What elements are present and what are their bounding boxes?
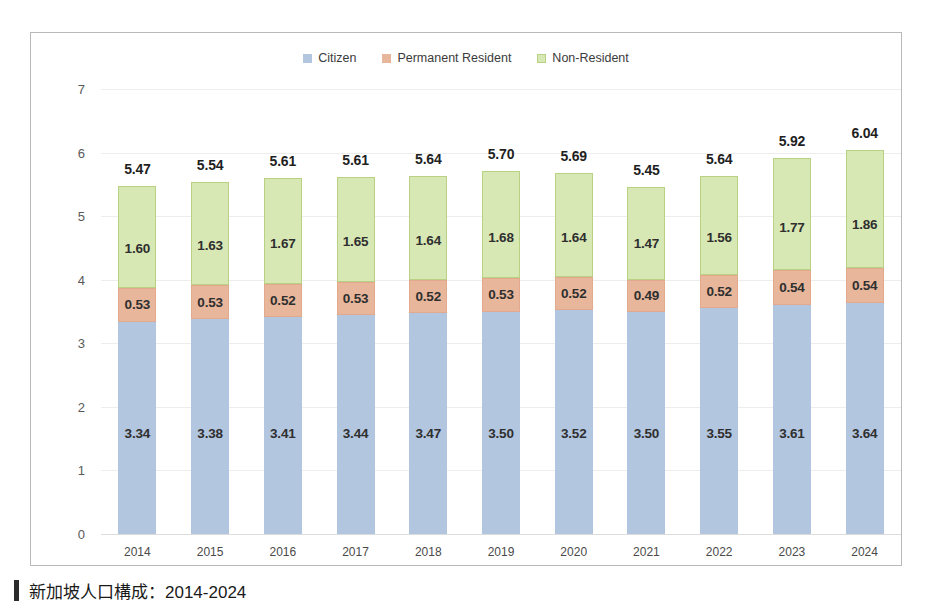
bar-group-2018[interactable]: 3.470.521.645.642018 [409, 89, 447, 534]
bar-segment-permanent-resident[interactable]: 0.54 [846, 268, 884, 302]
legend-item-citizen[interactable]: Citizen [303, 51, 356, 65]
bar-segment-non-resident[interactable]: 1.86 [846, 150, 884, 268]
legend-label: Permanent Resident [397, 51, 511, 65]
legend-item-non-resident[interactable]: Non-Resident [537, 51, 628, 65]
bar-segment-non-resident[interactable]: 1.68 [482, 171, 520, 278]
y-axis-tick: 1 [78, 463, 85, 478]
bar-group-2021[interactable]: 3.500.491.475.452021 [627, 89, 665, 534]
bar-segment-permanent-resident[interactable]: 0.53 [482, 278, 520, 312]
caption-marker-icon [14, 580, 19, 601]
bar-segment-citizen[interactable]: 3.44 [337, 315, 375, 534]
bar-group-2023[interactable]: 3.610.541.775.922023 [773, 89, 811, 534]
x-axis-tick-2018: 2018 [415, 545, 442, 559]
bar-segment-permanent-resident[interactable]: 0.52 [700, 275, 738, 308]
bar-total-label: 5.64 [706, 151, 732, 167]
bar-segment-permanent-resident[interactable]: 0.49 [627, 280, 665, 311]
bar-segment-permanent-resident[interactable]: 0.53 [118, 288, 156, 322]
bar-total-label: 5.69 [560, 148, 586, 164]
bar-value-label-permanent-resident: 0.53 [197, 295, 222, 310]
bar-value-label-permanent-resident: 0.52 [561, 286, 586, 301]
bar-segment-citizen[interactable]: 3.50 [482, 312, 520, 535]
caption: 新加坡人口構成：2014-2024 [14, 578, 246, 603]
bar-segment-non-resident[interactable]: 1.56 [700, 176, 738, 275]
y-axis-tick: 7 [78, 82, 85, 97]
bar-group-2024[interactable]: 3.640.541.866.042024 [846, 89, 884, 534]
bar-segment-non-resident[interactable]: 1.63 [191, 182, 229, 286]
x-axis-tick-2024: 2024 [851, 545, 878, 559]
bar-segment-citizen[interactable]: 3.34 [118, 322, 156, 534]
bar-segment-citizen[interactable]: 3.47 [409, 313, 447, 534]
bar-segment-non-resident[interactable]: 1.67 [264, 178, 302, 284]
bar-segment-citizen[interactable]: 3.52 [555, 310, 593, 534]
bar-segment-permanent-resident[interactable]: 0.52 [264, 284, 302, 317]
y-axis-tick: 6 [78, 145, 85, 160]
caption-text: 新加坡人口構成：2014-2024 [29, 578, 246, 603]
bar-value-label-citizen: 3.52 [561, 426, 586, 441]
bar-segment-citizen[interactable]: 3.38 [191, 319, 229, 534]
bar-value-label-non-resident: 1.67 [270, 236, 295, 251]
bar-value-label-permanent-resident: 0.52 [270, 293, 295, 308]
legend-label: Non-Resident [552, 51, 628, 65]
bar-value-label-non-resident: 1.68 [488, 230, 513, 245]
bar-group-2014[interactable]: 3.340.531.605.472014 [118, 89, 156, 534]
bar-segment-permanent-resident[interactable]: 0.52 [409, 280, 447, 313]
bar-value-label-non-resident: 1.65 [343, 234, 368, 249]
x-axis-tick-2023: 2023 [779, 545, 806, 559]
bar-segment-non-resident[interactable]: 1.60 [118, 186, 156, 288]
bar-group-2016[interactable]: 3.410.521.675.612016 [264, 89, 302, 534]
legend-item-permanent-resident[interactable]: Permanent Resident [382, 51, 511, 65]
bar-total-label: 5.92 [779, 133, 805, 149]
bar-segment-citizen[interactable]: 3.61 [773, 305, 811, 534]
bar-group-2019[interactable]: 3.500.531.685.702019 [482, 89, 520, 534]
bar-value-label-citizen: 3.41 [270, 426, 295, 441]
bar-value-label-permanent-resident: 0.54 [779, 280, 804, 295]
bar-segment-non-resident[interactable]: 1.65 [337, 177, 375, 282]
bar-value-label-non-resident: 1.56 [706, 230, 731, 245]
bar-total-label: 5.61 [270, 153, 296, 169]
bar-segment-citizen[interactable]: 3.55 [700, 308, 738, 534]
x-axis-tick-2022: 2022 [706, 545, 733, 559]
bar-segment-non-resident[interactable]: 1.64 [555, 173, 593, 277]
bar-group-2017[interactable]: 3.440.531.655.612017 [337, 89, 375, 534]
x-axis-tick-2015: 2015 [197, 545, 224, 559]
bar-value-label-citizen: 3.61 [779, 426, 804, 441]
bar-total-label: 5.61 [342, 152, 368, 168]
y-axis-tick: 5 [78, 209, 85, 224]
bar-segment-permanent-resident[interactable]: 0.54 [773, 270, 811, 304]
bar-group-2015[interactable]: 3.380.531.635.542015 [191, 89, 229, 534]
bar-segment-non-resident[interactable]: 1.47 [627, 187, 665, 280]
bar-value-label-citizen: 3.64 [852, 426, 877, 441]
legend-swatch-icon [382, 54, 391, 63]
bar-segment-permanent-resident[interactable]: 0.53 [337, 282, 375, 316]
bar-segment-non-resident[interactable]: 1.77 [773, 158, 811, 271]
bar-value-label-non-resident: 1.77 [779, 220, 804, 235]
x-axis-tick-2019: 2019 [488, 545, 515, 559]
legend-label: Citizen [318, 51, 356, 65]
bar-segment-permanent-resident[interactable]: 0.53 [191, 285, 229, 319]
bar-total-label: 5.45 [633, 162, 659, 178]
legend-swatch-icon [303, 54, 312, 63]
x-axis-tick-2014: 2014 [124, 545, 151, 559]
bar-value-label-permanent-resident: 0.52 [706, 284, 731, 299]
bar-value-label-permanent-resident: 0.52 [416, 289, 441, 304]
bar-total-label: 5.54 [197, 157, 223, 173]
bar-value-label-citizen: 3.44 [343, 426, 368, 441]
bar-value-label-non-resident: 1.64 [561, 230, 586, 245]
bar-segment-permanent-resident[interactable]: 0.52 [555, 277, 593, 310]
bar-value-label-non-resident: 1.64 [416, 233, 441, 248]
bar-value-label-citizen: 3.50 [488, 426, 513, 441]
bar-group-2022[interactable]: 3.550.521.565.642022 [700, 89, 738, 534]
y-axis-tick: 4 [78, 272, 85, 287]
x-axis-tick-2021: 2021 [633, 545, 660, 559]
bar-value-label-permanent-resident: 0.49 [634, 288, 659, 303]
bar-segment-citizen[interactable]: 3.50 [627, 312, 665, 535]
bar-segment-citizen[interactable]: 3.64 [846, 303, 884, 534]
bar-total-label: 5.70 [488, 146, 514, 162]
x-axis-tick-2017: 2017 [342, 545, 369, 559]
bar-segment-non-resident[interactable]: 1.64 [409, 176, 447, 280]
bar-group-2020[interactable]: 3.520.521.645.692020 [555, 89, 593, 534]
chart-legend: CitizenPermanent ResidentNon-Resident [31, 51, 901, 65]
chart-panel: CitizenPermanent ResidentNon-Resident Mi… [30, 32, 902, 566]
bar-value-label-permanent-resident: 0.53 [343, 291, 368, 306]
bar-segment-citizen[interactable]: 3.41 [264, 317, 302, 534]
